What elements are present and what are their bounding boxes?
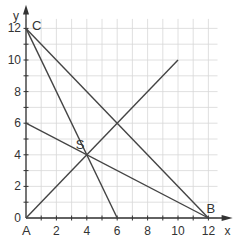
y-axis-label: y (13, 9, 19, 23)
y-tick-label: 12 (8, 21, 22, 35)
x-axis-label: x (224, 224, 230, 238)
point-label-c: C (32, 18, 41, 33)
x-tick-label: 8 (144, 224, 151, 238)
y-tick-label: 4 (14, 148, 21, 162)
x-tick-label: 6 (114, 224, 121, 238)
x-tick-label: 10 (171, 224, 185, 238)
y-tick-label: 8 (14, 85, 21, 99)
y-tick-label: 2 (14, 179, 21, 193)
point-label-a: A (22, 223, 31, 238)
x-tick-label: 2 (53, 224, 60, 238)
y-tick-label: 0 (14, 211, 21, 225)
x-tick-label: 12 (202, 224, 216, 238)
y-tick-label: 10 (8, 53, 22, 67)
point-label-b: B (206, 201, 215, 216)
coordinate-plane: 24681012024681012xyABCS (0, 0, 233, 239)
point-label-s: S (76, 137, 85, 152)
x-tick-label: 4 (83, 224, 90, 238)
x-axis-arrow-icon (222, 215, 233, 221)
y-tick-label: 6 (14, 116, 21, 130)
y-axis-arrow-icon (23, 5, 29, 15)
